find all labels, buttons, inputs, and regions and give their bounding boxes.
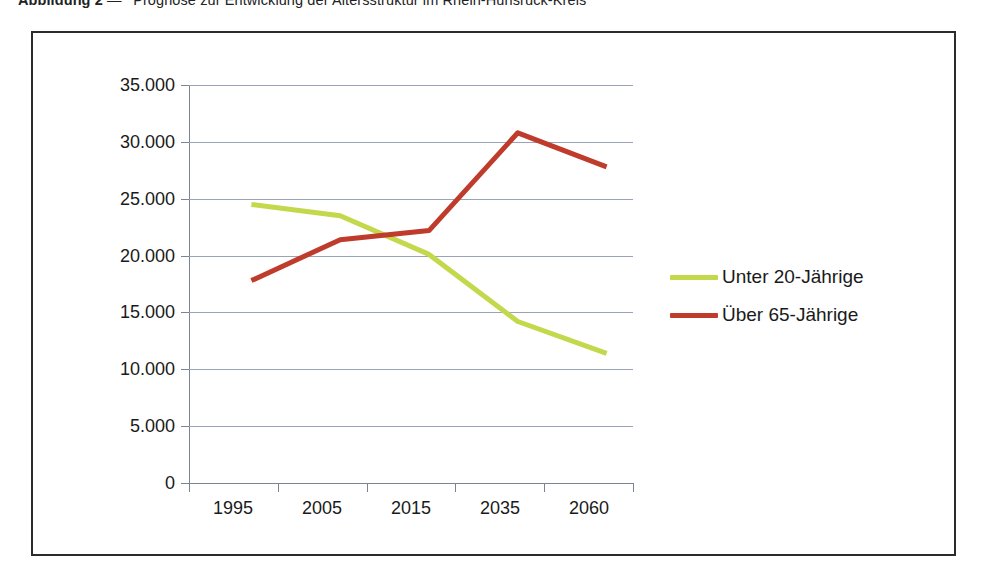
y-axis-tick [181, 426, 189, 427]
y-axis-tick [181, 199, 189, 200]
figure-caption-text: Prognose zur Entwicklung der Altersstruk… [133, 0, 586, 8]
chart-legend: Unter 20-JährigeÜber 65-Jährige [670, 258, 920, 334]
y-axis-tick-label: 35.000 [75, 76, 175, 94]
x-axis-line [189, 483, 634, 484]
gridline [189, 199, 633, 200]
gridline [189, 256, 633, 257]
legend-item[interactable]: Über 65-Jährige [670, 296, 920, 334]
legend-color-swatch [670, 313, 718, 318]
legend-item[interactable]: Unter 20-Jährige [670, 258, 920, 296]
gridline [189, 142, 633, 143]
y-axis-line [189, 85, 190, 484]
y-axis-tick-label: 15.000 [75, 303, 175, 321]
y-axis-tick-label: 10.000 [75, 360, 175, 378]
gridline [189, 369, 633, 370]
gridline [189, 85, 633, 86]
y-axis-tick [181, 85, 189, 86]
y-axis-tick [181, 483, 189, 484]
y-axis-tick-label: 20.000 [75, 247, 175, 265]
x-axis-tick [544, 483, 545, 492]
y-axis-labels: 35.00030.00025.00020.00015.00010.0005.00… [70, 0, 175, 574]
x-axis-tick-label: 2060 [534, 497, 644, 519]
x-axis-tick [633, 483, 634, 492]
gridline [189, 426, 633, 427]
gridline [189, 312, 633, 313]
y-axis-tick [181, 256, 189, 257]
y-axis-tick-label: 5.000 [75, 417, 175, 435]
y-axis-tick-label: 25.000 [75, 190, 175, 208]
y-axis-tick [181, 142, 189, 143]
legend-color-swatch [670, 275, 718, 280]
x-axis-tick [278, 483, 279, 492]
y-axis-tick-label: 0 [75, 474, 175, 492]
x-axis-tick [455, 483, 456, 492]
x-axis-tick [367, 483, 368, 492]
y-axis-tick [181, 312, 189, 313]
legend-item-label: Unter 20-Jährige [722, 266, 864, 288]
x-axis-tick [189, 483, 190, 492]
legend-item-label: Über 65-Jährige [722, 304, 858, 326]
y-axis-tick [181, 369, 189, 370]
y-axis-tick-label: 30.000 [75, 133, 175, 151]
